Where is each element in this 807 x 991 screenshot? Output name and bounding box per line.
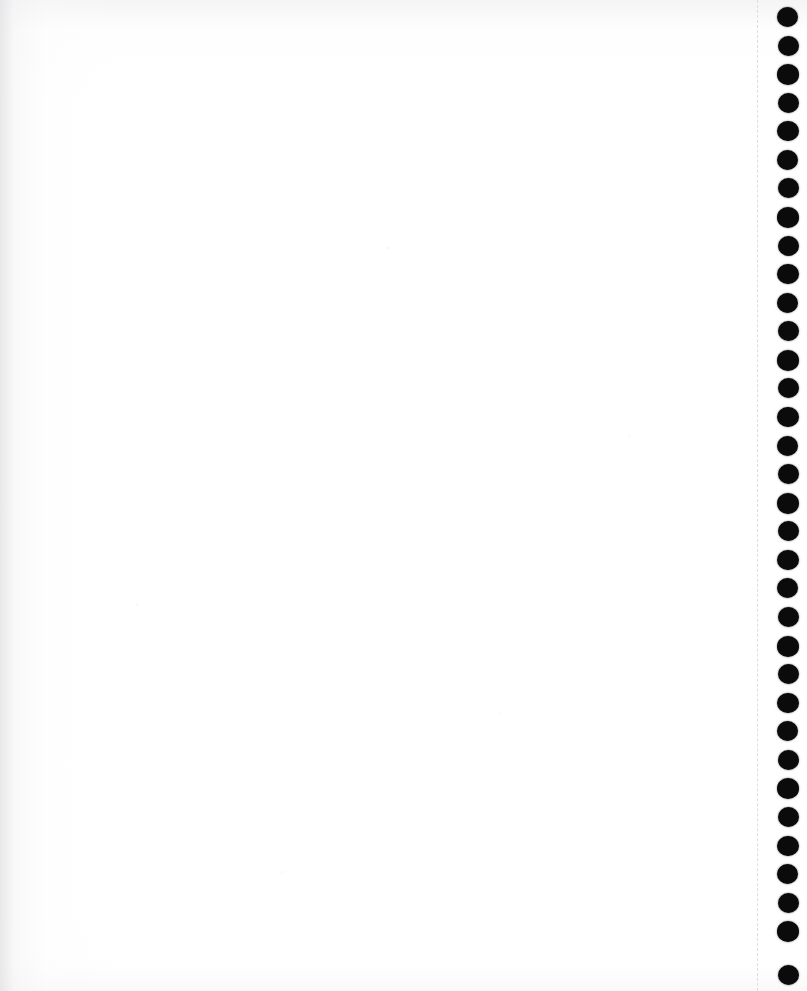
scanned-page (0, 0, 807, 991)
blank-writing-area (0, 0, 757, 991)
perforation-tear-line-icon (757, 0, 758, 991)
